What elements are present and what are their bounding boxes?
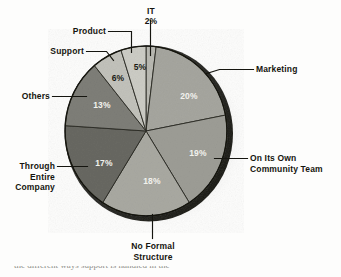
label-marketing: Marketing bbox=[256, 64, 338, 75]
page-text-fragment-line: the different ways support is handled in… bbox=[14, 266, 170, 270]
slice-value-no-formal-structure: 18% bbox=[143, 176, 161, 186]
pie-chart-figure: 20% 19% 18% 17% 13% 6% 5% IT 2% Product … bbox=[0, 0, 341, 277]
slice-value-marketing: 20% bbox=[180, 91, 198, 101]
label-no-formal-structure: No Formal Structure bbox=[113, 241, 193, 262]
label-product: Product bbox=[48, 26, 106, 37]
label-on-its-own-community-team: On Its Own Community Team bbox=[250, 153, 340, 174]
label-others: Others bbox=[8, 91, 50, 102]
slice-value-others: 13% bbox=[93, 100, 111, 110]
slice-value-through-entire-company: 17% bbox=[95, 158, 113, 168]
chart-canvas bbox=[0, 0, 341, 277]
slice-value-community-team: 19% bbox=[189, 148, 207, 158]
label-through-entire-company: Through Entire Company bbox=[2, 161, 55, 193]
label-it-value: 2% bbox=[134, 16, 168, 27]
page-text-fragment: the different ways support is handled in… bbox=[0, 266, 341, 277]
slice-value-product: 5% bbox=[134, 62, 147, 72]
label-it: IT bbox=[134, 6, 168, 17]
slice-value-support: 6% bbox=[112, 73, 125, 83]
label-support: Support bbox=[28, 46, 84, 57]
